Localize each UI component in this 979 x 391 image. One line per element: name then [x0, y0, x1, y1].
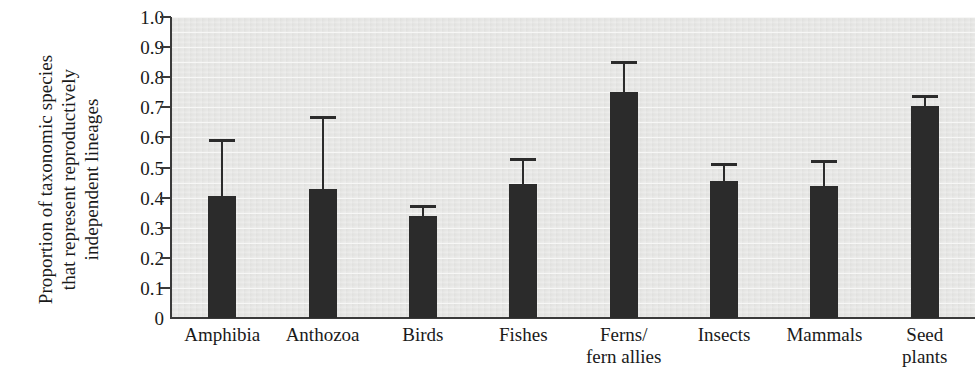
error-bar-whisker [623, 61, 625, 93]
gridline [172, 273, 975, 274]
error-bar-cap [711, 163, 737, 166]
bar [610, 92, 638, 318]
x-tick-label: Seedplants [855, 324, 979, 368]
y-axis-title-line-2: that represent reproductively [57, 20, 80, 340]
gridline [172, 168, 975, 169]
gridline [172, 62, 975, 63]
bar [409, 216, 437, 318]
y-tick-mark [160, 197, 171, 199]
y-tick-mark [160, 16, 171, 18]
bar [710, 181, 738, 318]
plot-area [172, 17, 975, 318]
gridline [172, 92, 975, 93]
error-bar-whisker [522, 158, 524, 184]
error-bar-whisker [823, 160, 825, 186]
gridline [172, 77, 975, 78]
y-tick-mark [160, 76, 171, 78]
gridline [172, 152, 975, 153]
y-tick-label: 0.4 [112, 188, 164, 207]
gridline [172, 228, 975, 229]
y-tick-label: 0.6 [112, 128, 164, 147]
y-tick-mark [160, 257, 171, 259]
y-tick-mark [160, 106, 171, 108]
y-tick-label: 0.1 [112, 278, 164, 297]
gridline [172, 122, 975, 123]
x-axis-line [170, 317, 975, 319]
gridline [172, 17, 975, 18]
gridline [172, 288, 975, 289]
error-bar-cap [310, 116, 336, 119]
bar-chart-figure: Proportion of taxonomic species that rep… [0, 0, 979, 391]
error-bar-cap [209, 139, 235, 142]
y-tick-mark [160, 167, 171, 169]
y-axis-title-line-3: independent lineages [80, 20, 103, 340]
y-tick-label: 0.8 [112, 68, 164, 87]
gridline [172, 303, 975, 304]
gridline [172, 107, 975, 108]
bar [208, 196, 236, 318]
x-tick-label-line: Seed [855, 324, 979, 346]
y-tick-mark [160, 227, 171, 229]
y-tick-label: 0.7 [112, 98, 164, 117]
bar [911, 106, 939, 318]
error-bar-whisker [322, 116, 324, 188]
error-bar-cap [611, 61, 637, 64]
y-tick-label: 0.9 [112, 38, 164, 57]
gridline [172, 137, 975, 138]
x-tick-label-line: plants [855, 346, 979, 368]
bar [309, 189, 337, 318]
error-bar-cap [510, 158, 536, 161]
gridline [172, 243, 975, 244]
gridline [172, 213, 975, 214]
bar [810, 186, 838, 318]
gridline [172, 258, 975, 259]
y-tick-label: 0.5 [112, 158, 164, 177]
y-tick-mark [160, 287, 171, 289]
error-bar-whisker [221, 139, 223, 196]
y-tick-label: 1.0 [112, 8, 164, 27]
gridline [172, 47, 975, 48]
y-tick-mark [160, 136, 171, 138]
y-axis-title-line-1: Proportion of taxonomic species [34, 20, 57, 340]
error-bar-cap [410, 205, 436, 208]
y-tick-label: 0.2 [112, 248, 164, 267]
gridline [172, 183, 975, 184]
y-axis-title: Proportion of taxonomic species that rep… [34, 20, 103, 340]
gridline [172, 198, 975, 199]
error-bar-cap [912, 95, 938, 98]
x-axis-category-labels: AmphibiaAnthozoaBirdsFishesFerns/fern al… [172, 322, 975, 391]
y-tick-label: 0.3 [112, 218, 164, 237]
gridline [172, 32, 975, 33]
y-tick-mark [160, 46, 171, 48]
error-bar-cap [811, 160, 837, 163]
bar [509, 184, 537, 318]
x-tick-label-line: fern allies [554, 346, 694, 368]
